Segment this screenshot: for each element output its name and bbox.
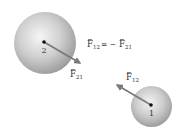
equation: F 12 = − F 21 xyxy=(87,39,132,50)
sphere-2: 2 xyxy=(14,12,80,74)
f21-subscript: 21 xyxy=(76,74,83,80)
force-label-f12: F 12 xyxy=(126,72,139,83)
sphere-1-center-dot xyxy=(149,103,153,107)
f12-subscript: 12 xyxy=(132,77,139,83)
force-diagram: 2 F 21 F 12 = − F 21 1 F 12 xyxy=(0,0,182,134)
sphere-1-label: 1 xyxy=(149,109,154,118)
equation-lhs-subscript: 12 xyxy=(93,44,100,50)
sphere-1: 1 xyxy=(117,85,172,127)
sphere-2-label: 2 xyxy=(41,46,46,55)
equation-rhs-subscript: 21 xyxy=(125,44,132,50)
equation-operator: = − xyxy=(101,40,116,49)
force-label-f21: F 21 xyxy=(70,69,83,80)
sphere-2-center-dot xyxy=(42,40,46,44)
